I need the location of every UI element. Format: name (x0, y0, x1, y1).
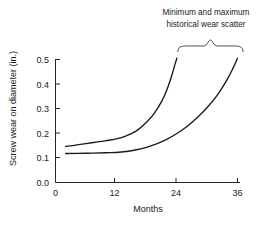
x-tick-label: 12 (109, 188, 119, 198)
y-tick-label: 0.2 (36, 129, 49, 139)
chart-canvas: Screw wear on diameter (in.) 0.5 0.4 0.3… (0, 0, 267, 226)
y-tick-label: 0.4 (36, 80, 49, 90)
y-tick-labels: 0.5 0.4 0.3 0.2 0.1 0.0 (36, 55, 49, 188)
annotation-line-2: historical wear scatter (166, 20, 245, 29)
y-axis-title-text: Screw wear on diameter (in.) (8, 51, 18, 166)
y-tick-label: 0.5 (36, 55, 49, 65)
scatter-annotation-text: Minimum and maximum historical wear scat… (163, 8, 250, 29)
y-tick-label: 0.1 (36, 153, 49, 163)
y-tick-label: 0.3 (36, 104, 49, 114)
x-axis-title-text: Months (133, 204, 163, 214)
scatter-brace-icon (178, 40, 243, 52)
annotation-line-1: Minimum and maximum (163, 8, 250, 17)
y-axis-title: Screw wear on diameter (in.) (8, 51, 18, 166)
x-tick-label: 24 (171, 188, 181, 198)
x-tick-marks (115, 178, 238, 183)
y-tick-marks (56, 60, 61, 158)
y-tick-label: 0.0 (36, 178, 49, 188)
x-tick-label: 36 (232, 188, 242, 198)
max-wear-curve (66, 58, 177, 146)
wear-scatter-chart: Screw wear on diameter (in.) 0.5 0.4 0.3… (0, 0, 267, 226)
min-wear-curve (66, 58, 238, 153)
x-tick-label: 0 (53, 188, 58, 198)
x-tick-labels: 0 12 24 36 (53, 188, 243, 198)
